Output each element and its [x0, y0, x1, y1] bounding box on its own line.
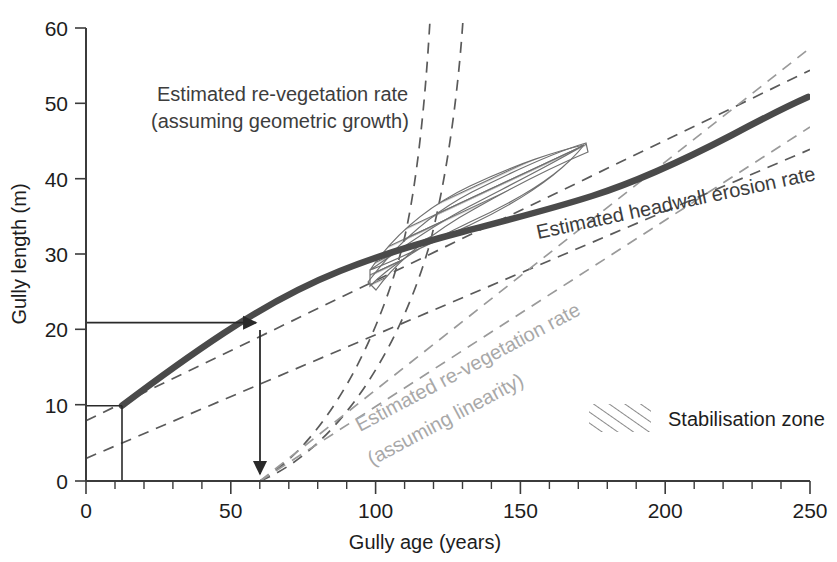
gully-length-vs-age-chart: 60 50 40 30 20 10 0 0 50 100 150 200 250… [0, 0, 837, 562]
x-tick-label-200: 200 [648, 499, 683, 522]
x-tick-label-0: 0 [80, 499, 92, 522]
y-tick-label-10: 10 [45, 394, 68, 417]
y-tick-label-20: 20 [45, 318, 68, 341]
axes-group: 60 50 40 30 20 10 0 0 50 100 150 200 250… [8, 17, 828, 553]
legend: Stabilisation zone [589, 404, 825, 432]
x-tick-label-150: 150 [503, 499, 538, 522]
y-tick-label-30: 30 [45, 243, 68, 266]
y-axis-title: Gully length (m) [8, 183, 30, 324]
x-tick-label-250: 250 [792, 499, 827, 522]
x-axis-title: Gully age (years) [349, 531, 501, 553]
x-tick-label-100: 100 [358, 499, 393, 522]
y-tick-label-50: 50 [45, 92, 68, 115]
y-tick-label-40: 40 [45, 168, 68, 191]
revegetation-geometric-label-line2: (assuming geometric growth) [151, 110, 409, 132]
read-off-annotations [87, 323, 260, 481]
stabilisation-zone-swatch-icon [589, 404, 651, 432]
y-tick-label-0: 0 [56, 470, 68, 493]
revegetation-geometric-label-line1: Estimated re-vegetation rate [157, 83, 408, 105]
x-tick-label-50: 50 [219, 499, 242, 522]
y-tick-label-60: 60 [45, 17, 68, 40]
legend-item-stabilisation-zone-label: Stabilisation zone [668, 408, 825, 430]
y-axis-ticks [75, 28, 86, 481]
chart-container: 60 50 40 30 20 10 0 0 50 100 150 200 250… [0, 0, 837, 562]
x-axis-minor-ticks [115, 481, 781, 489]
x-axis-ticks [86, 481, 810, 494]
